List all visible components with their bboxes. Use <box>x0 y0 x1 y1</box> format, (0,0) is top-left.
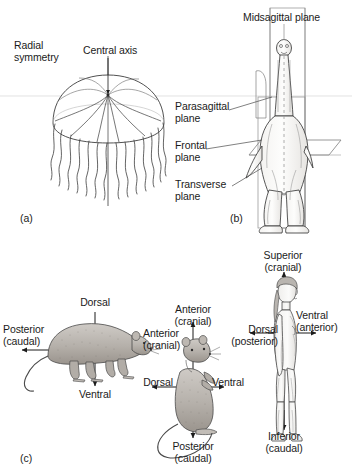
human-inferior-caudal-label: Inferior (caudal) <box>265 431 302 454</box>
human-superior-cranial-label: Superior (cranial) <box>264 250 303 273</box>
parasagittal-plane-label: Parasagittal plane <box>175 101 229 124</box>
rat-lateral-ventral-label: Ventral <box>79 389 111 401</box>
frontal-plane-label: Frontal plane <box>175 140 207 163</box>
rat-upright-dorsal-label: Dorsal <box>143 377 173 389</box>
panel-a-id: (a) <box>20 212 33 224</box>
radial-symmetry-label: Radial symmetry <box>14 40 59 63</box>
rat-upright-ventral-label: Ventral <box>212 377 244 389</box>
midsagittal-plane-label: Midsagittal plane <box>243 12 320 24</box>
panel-b-id: (b) <box>230 212 243 224</box>
central-axis-label: Central axis <box>83 45 137 57</box>
rat-upright-anterior-cranial-label: Anterior (cranial) <box>174 304 211 327</box>
rat-lateral-anterior-cranial-label: Anterior (cranial) <box>143 328 180 351</box>
panel-c-id: (c) <box>20 452 32 464</box>
human-dorsal-posterior-label: Dorsal (posterior) <box>231 324 278 347</box>
human-ventral-anterior-label: Ventral (anterior) <box>296 310 338 333</box>
human-illustration <box>250 272 316 441</box>
rat-upright-posterior-caudal-label: Posterior (caudal) <box>172 441 213 464</box>
anatomy-figure: Radial symmetry Central axis Midsagittal… <box>0 0 352 475</box>
figure-artwork <box>0 0 352 475</box>
rat-lateral-dorsal-label: Dorsal <box>80 297 110 309</box>
rat-lateral-posterior-caudal-label: Posterior (caudal) <box>3 324 44 347</box>
transverse-plane-label: Transverse plane <box>175 179 226 202</box>
